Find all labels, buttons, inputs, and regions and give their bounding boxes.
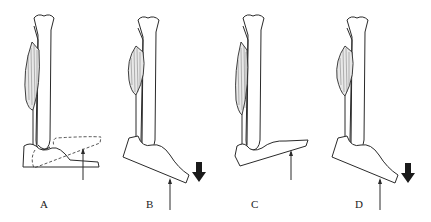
panel-c (235, 15, 308, 180)
panel-label-a: A (40, 198, 48, 210)
panel-b (123, 17, 206, 210)
foot (332, 136, 398, 183)
panel-label-b: B (146, 198, 153, 210)
panel-a (23, 15, 101, 180)
panel-label-d: D (355, 198, 363, 210)
bold-down-arrow (192, 162, 206, 182)
panel-d (332, 17, 415, 210)
panel-label-c: C (251, 198, 258, 210)
bold-down-arrow (401, 163, 415, 183)
figure-diagram (0, 0, 431, 222)
foot (123, 136, 189, 183)
